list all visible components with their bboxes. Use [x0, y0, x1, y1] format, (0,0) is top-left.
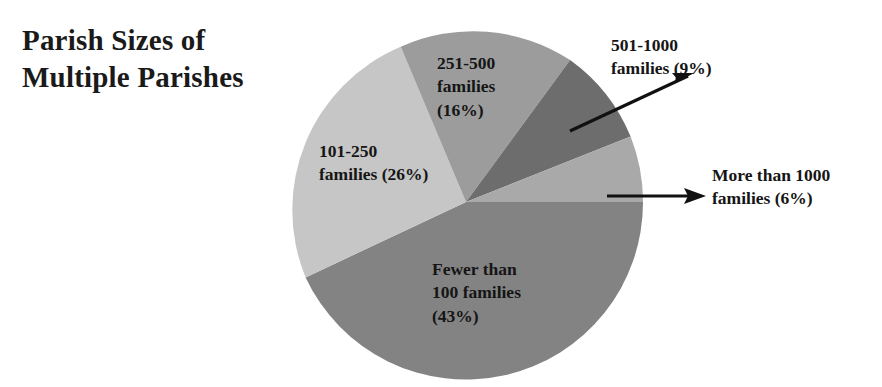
pie-label-fewer-100: Fewer than 100 families (43%): [432, 258, 521, 328]
pie-label-251-500: 251-500 families (16%): [437, 52, 495, 122]
pie-label-501-1000: 501-1000 families (9%): [611, 34, 712, 81]
chart-page: Parish Sizes of Multiple Parishes 251-50…: [0, 0, 882, 387]
pie-label-more-1000: More than 1000 families (6%): [712, 164, 830, 211]
pie-label-101-250: 101-250 families (26%): [319, 140, 428, 187]
